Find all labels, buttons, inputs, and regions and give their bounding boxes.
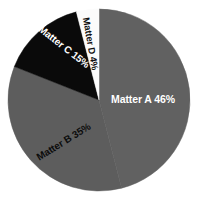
pie-slices [8,9,190,191]
pie-chart-canvas [0,0,199,207]
pie-chart-figure: Matter A 46% Matter B 35% Matter C 15% M… [0,0,199,207]
